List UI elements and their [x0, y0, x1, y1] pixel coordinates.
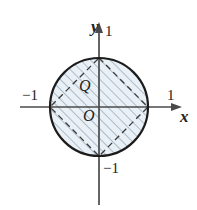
y-tick-label-negative-one: −1	[103, 161, 119, 176]
origin-label: O	[83, 108, 95, 124]
x-axis-label: x	[180, 108, 189, 125]
point-label-q: Q	[79, 78, 91, 94]
x-tick-label-negative-one: −1	[22, 88, 38, 103]
x-tick-label-positive-one: 1	[167, 88, 175, 103]
y-axis-label: y	[91, 18, 99, 35]
y-tick-label-positive-one: 1	[105, 24, 113, 39]
